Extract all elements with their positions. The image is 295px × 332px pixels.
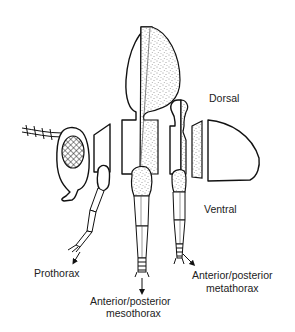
abdomen [192,120,259,181]
prothorax-notum [94,124,110,172]
label-mesothorax-line1: Anterior/posterior [90,295,171,307]
label-ventral: Ventral [204,203,237,215]
label-metathorax-line2: metathorax [206,282,259,294]
thorax-diagram: Dorsal Ventral Prothorax Anterior/poster… [0,0,295,332]
label-prothorax: Prothorax [34,267,80,279]
metathorax-coxa [172,170,186,192]
prothorax-tarsus [76,231,92,247]
abdomen-first-segment [192,121,202,178]
abdomen-posterior [208,120,259,181]
antenna [22,125,62,140]
prothorax-coxa [97,165,109,190]
mesothorax-coxa [131,166,152,196]
prothorax-arrow [74,252,80,262]
metathorax-arrow [183,254,193,264]
compound-eye [62,136,84,168]
head [22,125,89,201]
mesothorax-femur [134,196,149,226]
metathorax-femur [173,192,185,220]
metathorax-posterior-haltere [181,100,188,174]
label-metathorax-line1: Anterior/posterior [192,269,273,281]
prothorax-femur [90,188,104,212]
prothorax-tibia [87,210,96,232]
label-dorsal: Dorsal [209,92,239,104]
metathorax-anterior [170,100,181,174]
metathorax-segment [170,100,193,264]
label-mesothorax-line2: mesothorax [106,307,162,319]
metathorax-tibia [174,220,185,244]
